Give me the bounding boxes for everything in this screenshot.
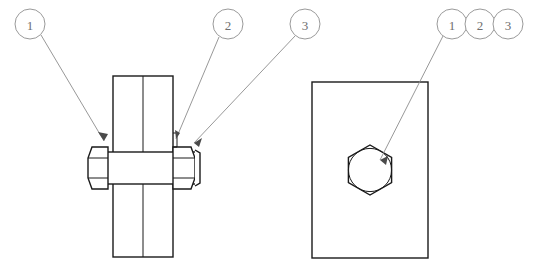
balloon-r3-label: 3 [505, 18, 512, 33]
balloon-group-right: 1 2 3 [437, 9, 523, 39]
section-view-group [88, 76, 200, 257]
thread-protrusion [195, 150, 200, 186]
assembly-drawing-svg: 1 2 3 1 2 3 [0, 0, 536, 277]
hex-nut [173, 147, 195, 189]
balloon-2[interactable]: 2 [213, 9, 243, 39]
nut-profile [173, 147, 195, 189]
balloon-r2[interactable]: 2 [465, 9, 495, 39]
leader-line-3 [194, 36, 295, 143]
balloon-2-label: 2 [225, 18, 232, 33]
balloon-3-label: 3 [302, 18, 309, 33]
balloon-r1[interactable]: 1 [437, 9, 467, 39]
balloon-1-label: 1 [27, 18, 34, 33]
balloon-r3[interactable]: 3 [493, 9, 523, 39]
leader-line-1 [41, 35, 104, 141]
balloon-group-left: 1 2 3 [15, 9, 320, 39]
bolt-head-profile [88, 147, 108, 189]
balloon-r2-label: 2 [477, 18, 484, 33]
balloon-3[interactable]: 3 [290, 9, 320, 39]
balloon-1[interactable]: 1 [15, 9, 45, 39]
bolt-head [88, 147, 108, 189]
technical-drawing-canvas: 1 2 3 1 2 3 [0, 0, 536, 277]
balloon-r1-label: 1 [449, 18, 456, 33]
side-view-group [312, 82, 428, 258]
